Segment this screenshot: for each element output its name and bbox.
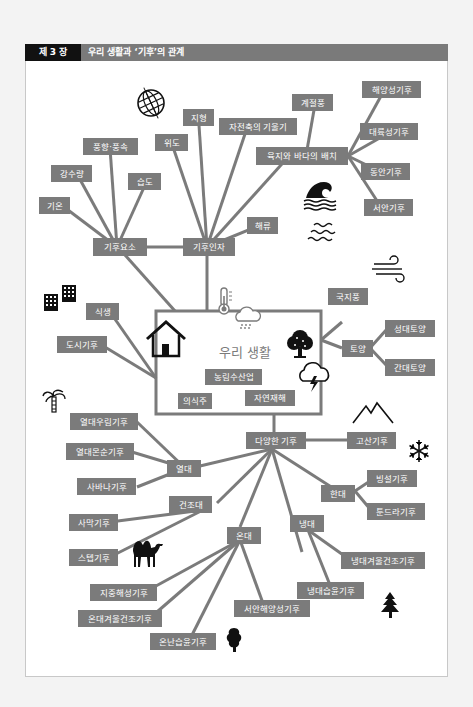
svg-text:냉대겨울건조기후: 냉대겨울건조기후	[351, 556, 415, 566]
svg-text:툰드라기후: 툰드라기후	[376, 507, 416, 517]
svg-text:기후인자: 기후인자	[193, 242, 225, 252]
svg-text:지중해성기후: 지중해성기후	[100, 588, 148, 598]
node-desert: 사막기후	[69, 514, 118, 531]
node-continental: 대륙성기후	[360, 123, 418, 140]
svg-text:대륙성기후: 대륙성기후	[369, 127, 409, 137]
node-temperature: 기온	[39, 197, 70, 214]
svg-text:성대토양: 성대토양	[394, 324, 426, 334]
svg-text:간대토양: 간대토양	[394, 363, 426, 373]
svg-text:다양한 기후: 다양한 기후	[255, 436, 298, 446]
node-zonal-soil: 성대토양	[385, 320, 435, 337]
center-item-food-clothing-shelter: 의식주	[178, 393, 212, 409]
tsunami-wave-icon	[304, 182, 336, 210]
node-tropical: 열대	[167, 460, 201, 477]
svg-text:온난습윤기후: 온난습윤기후	[159, 637, 207, 647]
node-savanna: 사바나기후	[77, 478, 136, 495]
node-urban-climate: 도시기후	[57, 336, 107, 353]
round-tree-icon	[227, 628, 242, 652]
svg-text:빙설기후: 빙설기후	[376, 474, 408, 484]
node-rainforest: 열대우림기후	[70, 413, 138, 430]
node-polar: 한대	[321, 485, 355, 502]
node-intrazonal-soil: 간대토양	[385, 359, 435, 376]
svg-text:자연재해: 자연재해	[254, 393, 286, 403]
node-axial-tilt: 자전축의 기울기	[219, 118, 297, 135]
svg-text:동안기후: 동안기후	[370, 167, 402, 177]
wind-icon	[372, 256, 404, 282]
svg-text:사막기후: 사막기후	[78, 518, 110, 528]
node-east-coast: 동안기후	[361, 163, 410, 180]
svg-text:서안해양성기후: 서안해양성기후	[244, 604, 300, 614]
svg-text:온대겨울건조기후: 온대겨울건조기후	[88, 614, 152, 624]
node-west-coast: 서안기후	[364, 199, 413, 216]
svg-text:위도: 위도	[164, 138, 180, 148]
center-title: 우리 생활	[219, 345, 271, 360]
svg-text:자전축의 기울기: 자전축의 기울기	[229, 122, 288, 132]
node-precipitation: 강수량	[51, 165, 92, 182]
snowflake-icon	[410, 440, 429, 462]
svg-text:기후요소: 기후요소	[104, 242, 136, 252]
node-humid-subtropical: 온난습윤기후	[150, 633, 216, 650]
center-item-agriculture: 농림수산업	[205, 369, 262, 385]
globe-icon	[132, 82, 170, 124]
svg-text:해류: 해류	[255, 221, 271, 231]
svg-text:온대: 온대	[236, 531, 252, 541]
node-diverse-climates: 다양한 기후	[246, 432, 306, 449]
svg-text:고산기후: 고산기후	[356, 436, 388, 446]
node-tropical-monsoon: 열대몬순기후	[66, 443, 134, 460]
svg-text:열대몬순기후: 열대몬순기후	[76, 447, 124, 457]
climate-relationship-diagram: 기후요소 기후인자 기온 강수량 풍향·풍속 습도 위도 지형 자전축의 기울기…	[0, 0, 473, 707]
node-vegetation: 식생	[86, 303, 119, 320]
svg-text:풍향·풍속: 풍향·풍속	[93, 142, 128, 152]
svg-text:육지와 바다의 배치: 육지와 바다의 배치	[267, 151, 336, 161]
svg-text:사바나기후: 사바나기후	[87, 482, 127, 492]
svg-text:냉대: 냉대	[299, 519, 315, 529]
node-land-sea: 육지와 바다의 배치	[256, 147, 348, 165]
node-subarctic: 냉대	[290, 515, 324, 532]
svg-text:기온: 기온	[47, 201, 63, 211]
svg-text:국지풍: 국지풍	[336, 292, 360, 302]
svg-text:해양성기후: 해양성기후	[372, 85, 412, 95]
svg-text:도시기후: 도시기후	[66, 340, 98, 350]
node-ocean-current: 해류	[247, 217, 278, 234]
node-temperate: 온대	[227, 527, 261, 544]
svg-text:의식주: 의식주	[183, 396, 207, 406]
svg-text:식생: 식생	[95, 307, 111, 317]
node-wind: 풍향·풍속	[83, 138, 138, 155]
svg-text:농림수산업: 농림수산업	[214, 372, 254, 382]
svg-text:냉대습윤기후: 냉대습윤기후	[307, 586, 355, 596]
storm-cloud-icon	[300, 363, 329, 392]
node-local-wind: 국지풍	[328, 288, 368, 305]
svg-text:열대: 열대	[176, 464, 192, 474]
node-climate-elements: 기후요소	[93, 238, 147, 256]
node-temperate-winter-dry: 온대겨울건조기후	[78, 610, 162, 627]
pine-tree-icon	[381, 592, 399, 618]
node-climate-factors: 기후인자	[183, 238, 235, 256]
node-subarctic-humid: 냉대습윤기후	[297, 582, 364, 599]
svg-text:강수량: 강수량	[60, 169, 84, 179]
node-subarctic-winter-dry: 냉대겨울건조기후	[341, 552, 425, 569]
node-steppe: 스텝기후	[69, 549, 118, 566]
node-terrain: 지형	[183, 109, 214, 126]
svg-text:계절풍: 계절풍	[301, 98, 325, 108]
node-highland: 고산기후	[347, 432, 396, 449]
svg-text:건조대: 건조대	[179, 500, 203, 510]
node-mediterranean: 지중해성기후	[90, 584, 157, 601]
node-soil: 토양	[342, 340, 373, 357]
node-ice-cap: 빙설기후	[367, 470, 417, 487]
node-marine-west-coast: 서안해양성기후	[234, 600, 310, 617]
svg-text:스텝기후: 스텝기후	[78, 553, 110, 563]
mountain-icon	[353, 403, 393, 423]
node-arid: 건조대	[169, 496, 212, 513]
node-monsoon: 계절풍	[292, 94, 333, 111]
svg-text:한대: 한대	[330, 489, 346, 499]
svg-text:습도: 습도	[137, 177, 153, 187]
palm-tree-icon	[43, 390, 65, 412]
node-tundra: 툰드라기후	[367, 503, 425, 520]
svg-text:토양: 토양	[350, 344, 366, 354]
node-humidity: 습도	[128, 173, 161, 190]
house-icon	[147, 322, 185, 356]
tree-icon	[287, 330, 313, 357]
node-latitude: 위도	[155, 134, 188, 151]
buildings-icon	[44, 285, 76, 311]
svg-text:열대우림기후: 열대우림기후	[80, 417, 128, 427]
